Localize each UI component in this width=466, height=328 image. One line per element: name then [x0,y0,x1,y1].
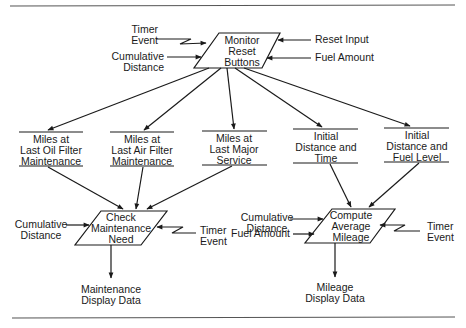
monitor-fuel-amount-label: Fuel Amount [315,52,374,63]
check-cumulative-distance-label: Cumulative Distance [12,219,70,241]
monitor-reset-buttons-label: Monitor Reset Buttons [212,35,272,68]
flow-monitor-air [144,68,221,130]
timer-event-arrow-compute [380,225,420,231]
compute-timer-event-label: Timer Event [427,221,454,243]
check-maintenance-need-label: Check Maintenance Need [86,212,156,245]
store-distance-time-label: Initial Distance and Time [290,131,362,164]
store-oil-filter-label: Miles at Last Oil Filter Maintenance [16,134,86,167]
bottom-rule [12,317,455,318]
flow-air-check [136,167,143,209]
flow-monitor-oil [48,68,209,130]
compute-average-mileage-label: Compute Average Mileage [316,210,386,243]
store-major-service-label: Miles at Last Major Service [199,133,269,166]
mileage-display-data-label: Mileage Display Data [295,282,375,304]
flow-fuel-compute [369,163,419,207]
compute-fuel-amount-label: Fuel Amount [224,228,290,239]
store-distance-fuel-label: Initial Distance and Fuel Level [381,130,453,163]
flow-monitor-major [227,68,234,129]
monitor-timer-event-label: Timer Event [100,24,158,46]
monitor-cumulative-distance-label: Cumulative Distance [100,51,164,73]
flow-oil-check [48,167,123,209]
timer-event-arrow-check [157,227,196,233]
timer-event-arrow-monitor [156,39,206,44]
top-rule [10,5,455,6]
maintenance-display-data-label: Maintenance Display Data [71,284,151,306]
check-timer-event-label: Timer Event [200,225,227,247]
flow-monitor-fuel [244,68,410,126]
flow-major-check [147,166,232,209]
flow-time-compute [330,164,351,207]
store-air-filter-label: Miles at Last Air Filter Maintenance [107,134,177,167]
flow-monitor-time [235,68,322,127]
reset-input-label: Reset Input [315,34,369,45]
